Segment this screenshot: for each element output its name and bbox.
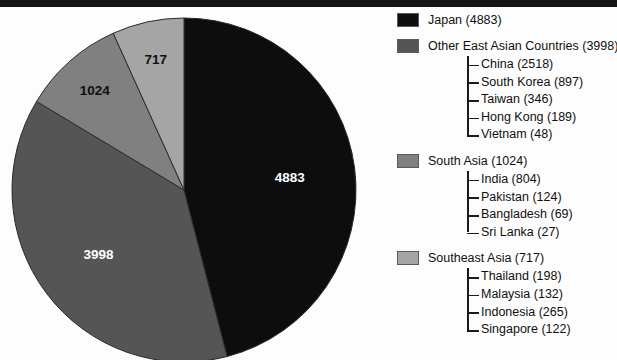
pie-chart-svg: 488339981024717 xyxy=(0,0,390,360)
legend-child-item[interactable]: Sri Lanka (27) xyxy=(481,224,617,242)
legend-child-item[interactable]: India (804) xyxy=(481,171,617,189)
legend-group-gap xyxy=(397,144,617,153)
legend-group-label: South Asia (1024) xyxy=(428,153,527,169)
legend-swatch xyxy=(397,13,419,27)
legend-child-item[interactable]: Hong Kong (189) xyxy=(481,109,617,127)
legend-group[interactable]: Southeast Asia (717)Thailand (198)Malays… xyxy=(397,250,617,338)
legend-head[interactable]: South Asia (1024) xyxy=(397,153,617,170)
legend-child-item[interactable]: China (2518) xyxy=(481,56,617,74)
legend-head[interactable]: Other East Asian Countries (3998) xyxy=(397,38,617,55)
legend-child-item[interactable]: Thailand (198) xyxy=(481,268,617,286)
chart-page: 488339981024717 Japan (4883)Other East A… xyxy=(0,0,617,360)
pie-slice-group xyxy=(12,18,356,360)
legend-swatch xyxy=(397,39,419,53)
legend-group-label: Southeast Asia (717) xyxy=(428,250,544,266)
pie-slice-label: 717 xyxy=(145,52,168,67)
legend-group-gap xyxy=(397,241,617,250)
legend-child-item[interactable]: Vietnam (48) xyxy=(481,126,617,144)
legend-child-item[interactable]: Bangladesh (69) xyxy=(481,206,617,224)
pie-slice-label: 4883 xyxy=(275,170,306,185)
legend-child-item[interactable]: Singapore (122) xyxy=(481,321,617,339)
legend-child-item[interactable]: Pakistan (124) xyxy=(481,189,617,207)
legend-children: China (2518)South Korea (897)Taiwan (346… xyxy=(467,56,617,144)
pie-chart: 488339981024717 xyxy=(0,0,390,360)
legend-group[interactable]: Japan (4883) xyxy=(397,12,617,29)
legend-group-label: Other East Asian Countries (3998) xyxy=(428,38,617,54)
legend-children: India (804)Pakistan (124)Bangladesh (69)… xyxy=(467,171,617,241)
legend-group-gap xyxy=(397,29,617,38)
legend-swatch xyxy=(397,251,419,265)
legend-child-item[interactable]: Taiwan (346) xyxy=(481,91,617,109)
legend-children: Thailand (198)Malaysia (132)Indonesia (2… xyxy=(467,268,617,338)
legend-group[interactable]: South Asia (1024)India (804)Pakistan (12… xyxy=(397,153,617,241)
legend-group-label: Japan (4883) xyxy=(428,12,502,28)
legend-child-item[interactable]: Indonesia (265) xyxy=(481,304,617,322)
legend-head[interactable]: Southeast Asia (717) xyxy=(397,250,617,267)
legend-group[interactable]: Other East Asian Countries (3998)China (… xyxy=(397,38,617,144)
pie-slice-label: 3998 xyxy=(84,247,115,262)
legend-head[interactable]: Japan (4883) xyxy=(397,12,617,29)
legend-child-item[interactable]: Malaysia (132) xyxy=(481,286,617,304)
legend-swatch xyxy=(397,154,419,168)
legend-child-item[interactable]: South Korea (897) xyxy=(481,74,617,92)
pie-slice-label: 1024 xyxy=(80,83,111,98)
chart-legend: Japan (4883)Other East Asian Countries (… xyxy=(397,12,617,352)
